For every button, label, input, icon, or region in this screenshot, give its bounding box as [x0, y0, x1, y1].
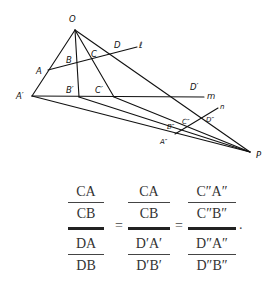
- line-A-prime-P: [32, 96, 250, 152]
- label-B: B: [66, 55, 72, 65]
- fraction-3-num-bar: [188, 202, 236, 203]
- fraction-1-main-bar: [68, 227, 104, 230]
- fraction-2-den-bar: [128, 254, 170, 255]
- line-OB-prime: [75, 30, 79, 97]
- label-A-dprime: A″: [159, 138, 168, 146]
- label-D-prime: D′: [190, 82, 199, 92]
- fraction-2-num-bottom: CB: [128, 205, 170, 222]
- period: .: [239, 217, 243, 233]
- fraction-3-num-top: C″A″: [188, 183, 236, 200]
- label-C: C: [91, 49, 97, 59]
- label-P: P: [256, 150, 262, 160]
- label-C-prime: C′: [95, 85, 103, 95]
- fraction-1-num-bar: [68, 202, 104, 203]
- fraction-1-den-bottom: DB: [68, 257, 104, 274]
- fraction-3-main-bar: [188, 227, 236, 230]
- projective-cross-ratio-diagram: O A B C D ℓ A′ B′ C′ D′ m n D″ C″ B″ A″ …: [0, 0, 275, 170]
- fraction-3-den-bar: [188, 254, 236, 255]
- label-B-dprime: B″: [167, 123, 175, 131]
- label-line-n: n: [220, 103, 224, 111]
- equals-sign-2: =: [175, 218, 183, 234]
- label-line-l: ℓ: [138, 40, 143, 50]
- line-m: [32, 96, 204, 97]
- fraction-1-num-top: CA: [68, 183, 104, 200]
- label-line-m: m: [207, 91, 215, 101]
- fraction-1-den-bar: [68, 254, 104, 255]
- fraction-1-den-top: DA: [68, 235, 104, 252]
- fraction-2: CA CB D′A′ D′B′: [128, 183, 170, 274]
- fraction-3-den-bottom: D″B″: [188, 257, 236, 274]
- fraction-2-num-top: CA: [128, 183, 170, 200]
- label-D-dprime: D″: [206, 116, 214, 124]
- label-C-dprime: C″: [182, 118, 190, 126]
- label-B-prime: B′: [66, 85, 74, 95]
- label-D: D: [114, 40, 121, 50]
- label-O: O: [69, 14, 76, 24]
- label-A-prime: A′: [15, 91, 24, 101]
- label-A: A: [35, 66, 42, 76]
- equals-sign-1: =: [115, 218, 123, 234]
- fraction-2-den-top: D′A′: [128, 235, 170, 252]
- fraction-2-den-bottom: D′B′: [128, 257, 170, 274]
- fraction-3: C″A″ C″B″ D″A″ D″B″: [188, 183, 236, 274]
- fraction-1: CA CB DA DB: [68, 183, 104, 274]
- fraction-3-num-bottom: C″B″: [188, 205, 236, 222]
- cross-ratio-equation: CA CB DA DB = CA CB D′A′ D′B′ = C″A″ C″B…: [0, 183, 275, 278]
- fraction-2-main-bar: [128, 227, 170, 230]
- fraction-1-num-bottom: CB: [68, 205, 104, 222]
- fraction-3-den-top: D″A″: [188, 235, 236, 252]
- fraction-2-num-bar: [128, 202, 170, 203]
